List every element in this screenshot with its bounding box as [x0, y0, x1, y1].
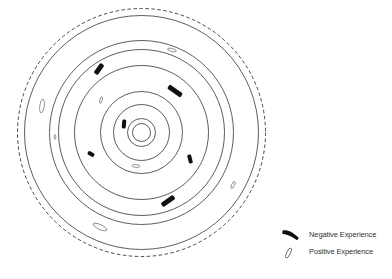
negative-experience-mark	[160, 195, 175, 208]
positive-experience-mark	[92, 222, 108, 233]
rings-group	[18, 9, 266, 257]
ring-1	[25, 16, 259, 250]
legend-positive-label: Positive Experience	[309, 247, 373, 256]
positive-experience-icon	[285, 247, 293, 258]
negative-experience-icon	[283, 231, 298, 240]
negative-experience-mark	[87, 151, 95, 158]
legend-negative-label: Negative Experience	[309, 230, 376, 239]
ring-3	[59, 50, 225, 216]
positive-experience-mark	[230, 181, 236, 189]
ring-2	[50, 41, 234, 225]
ring-8	[133, 124, 151, 142]
legend-icons	[283, 231, 298, 259]
positive-experience-mark	[39, 99, 45, 113]
ring-4	[75, 66, 209, 200]
ring-6	[114, 105, 170, 161]
ring-7	[128, 119, 156, 147]
negative-experience-mark	[122, 119, 127, 128]
positive-experience-mark	[132, 164, 140, 167]
positive-marks-group	[39, 47, 236, 232]
outer-dashed-ring	[18, 9, 266, 257]
negative-experience-mark	[187, 154, 193, 164]
positive-experience-mark	[167, 47, 176, 52]
positive-experience-mark	[99, 96, 103, 103]
negative-experience-mark	[94, 63, 105, 76]
ring-5	[101, 92, 183, 174]
negative-experience-mark	[167, 84, 183, 97]
negative-marks-group	[87, 63, 193, 208]
positive-experience-mark	[54, 135, 56, 140]
